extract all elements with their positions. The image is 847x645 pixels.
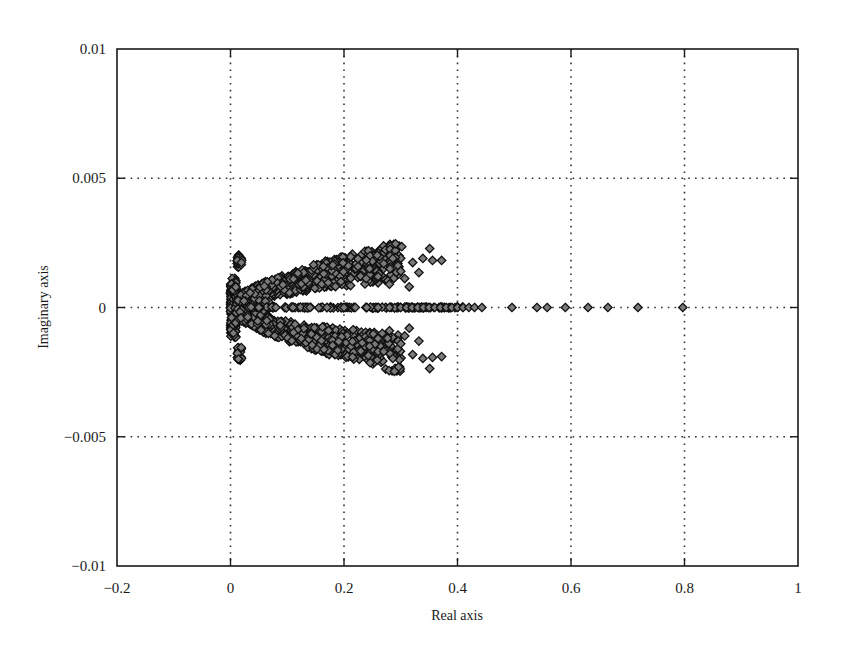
data-point	[405, 283, 413, 291]
data-point	[405, 324, 413, 332]
data-point	[561, 303, 569, 311]
data-point	[425, 364, 433, 372]
y-tick-label: 0.01	[80, 41, 106, 57]
x-tick-label: −0.2	[103, 580, 130, 596]
eigenvalue-scatter-chart: −0.200.20.40.60.81 0.010.0050−0.005−0.01…	[0, 0, 847, 645]
x-tick-labels: −0.200.20.40.60.81	[103, 580, 801, 596]
y-tick-labels: 0.010.0050−0.005−0.01	[64, 41, 106, 574]
data-point	[543, 303, 551, 311]
y-tick-label: 0.005	[72, 170, 106, 186]
data-point	[428, 353, 436, 361]
data-point	[634, 303, 642, 311]
y-tick-label: −0.01	[71, 558, 106, 574]
data-point	[428, 256, 436, 264]
data-point	[415, 268, 423, 276]
data-point	[437, 352, 445, 360]
y-axis-title: Imaginary axis	[36, 265, 51, 349]
x-tick-label: 0.2	[335, 580, 354, 596]
data-point	[604, 303, 612, 311]
data-point	[415, 337, 423, 345]
x-tick-label: 0.6	[562, 580, 581, 596]
data-point	[437, 256, 445, 264]
data-point	[419, 354, 427, 362]
data-point	[508, 303, 516, 311]
data-point	[478, 303, 486, 311]
data-point	[419, 254, 427, 262]
data-point	[533, 303, 541, 311]
y-tick-label: −0.005	[64, 429, 106, 445]
data-point	[408, 350, 416, 358]
y-tick-label: 0	[99, 300, 107, 316]
data-point	[584, 303, 592, 311]
data-point	[425, 244, 433, 252]
x-tick-label: 0	[227, 580, 235, 596]
x-axis-title: Real axis	[431, 608, 483, 623]
x-tick-label: 0.4	[448, 580, 467, 596]
x-tick-label: 0.8	[675, 580, 694, 596]
data-point	[408, 258, 416, 266]
data-point	[679, 303, 687, 311]
x-tick-label: 1	[794, 580, 802, 596]
data-points	[226, 240, 687, 376]
